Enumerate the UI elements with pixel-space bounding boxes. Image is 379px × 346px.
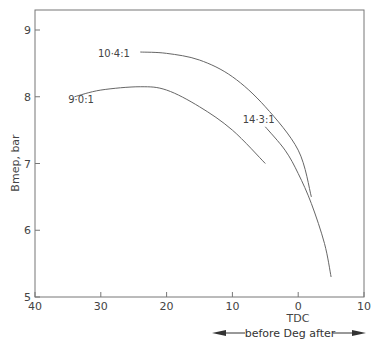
plot-frame bbox=[35, 10, 364, 297]
series-label: 10·4:1 bbox=[98, 48, 130, 59]
arrow-left-icon bbox=[212, 330, 226, 336]
y-axis-title: Bmep, bar bbox=[9, 134, 22, 192]
x-tick-label: 10 bbox=[357, 300, 371, 313]
x-tick-label: 20 bbox=[160, 300, 174, 313]
x-axis-tdc-label: TDC bbox=[286, 312, 310, 325]
running-title: COMBUSTION AND COMBUSTION CHAMBERS bbox=[2, 0, 249, 1]
series-group: 9·0:110·4:114·3:1 bbox=[68, 48, 331, 277]
x-axis: 40302010010 bbox=[28, 292, 371, 313]
direction-caption: before Deg after bbox=[212, 327, 366, 340]
direction-caption-text: before Deg after bbox=[245, 327, 336, 340]
y-tick-label: 6 bbox=[24, 224, 31, 237]
y-tick-label: 7 bbox=[24, 158, 31, 171]
arrow-right-icon bbox=[352, 330, 366, 336]
series-line-0 bbox=[74, 87, 265, 164]
y-axis: 56789 bbox=[24, 24, 40, 304]
running-header: COMBUSTION AND COMBUSTION CHAMBERS bbox=[2, 0, 249, 1]
bmep-vs-ignition-timing-chart: COMBUSTION AND COMBUSTION CHAMBERS 56789… bbox=[0, 0, 379, 346]
x-tick-label: 40 bbox=[28, 300, 42, 313]
series-label: 14·3:1 bbox=[243, 114, 275, 125]
x-tick-label: 30 bbox=[94, 300, 108, 313]
series-label: 9·0:1 bbox=[68, 94, 94, 105]
x-tick-label: 10 bbox=[225, 300, 239, 313]
y-tick-label: 8 bbox=[24, 91, 31, 104]
y-tick-label: 9 bbox=[24, 24, 31, 37]
